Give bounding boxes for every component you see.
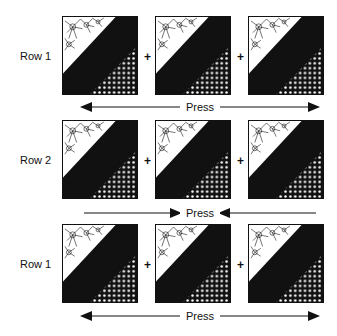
press-arrow-inward: Press <box>80 206 320 220</box>
quilt-block <box>248 120 324 199</box>
row-label: Row 2 <box>20 154 51 166</box>
quilt-block <box>248 16 324 95</box>
plus-sign: + <box>237 154 244 168</box>
quilt-block <box>155 120 231 199</box>
quilt-block <box>62 16 138 95</box>
quilt-block <box>248 224 324 303</box>
plus-sign: + <box>144 258 151 272</box>
plus-sign: + <box>144 154 151 168</box>
quilt-block <box>62 224 138 303</box>
press-label: Press <box>180 207 220 219</box>
press-label: Press <box>180 101 220 113</box>
quilt-block <box>155 16 231 95</box>
press-arrow-outward: Press <box>80 100 320 114</box>
plus-sign: + <box>144 50 151 64</box>
press-arrow-outward: Press <box>80 309 320 323</box>
plus-sign: + <box>237 258 244 272</box>
quilt-block <box>155 224 231 303</box>
press-label: Press <box>180 310 220 322</box>
row-label: Row 1 <box>20 50 51 62</box>
plus-sign: + <box>237 50 244 64</box>
row-label: Row 1 <box>20 258 51 270</box>
quilt-block <box>62 120 138 199</box>
